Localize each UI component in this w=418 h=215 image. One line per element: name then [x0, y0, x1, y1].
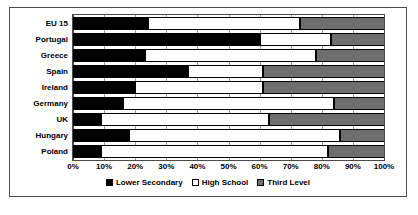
- bar-segment-high-school[interactable]: [260, 33, 332, 46]
- y-axis-category-labels: EU 15PortugalGreeceSpainIrelandGermanyUK…: [10, 15, 72, 160]
- bar-row[interactable]: [73, 129, 384, 142]
- bar-segment-third-level[interactable]: [331, 33, 384, 46]
- bar-segment-lower-secondary[interactable]: [73, 65, 188, 78]
- category-label-greece: Greece: [12, 49, 68, 62]
- category-label-poland: Poland: [12, 145, 68, 158]
- bar-segment-high-school[interactable]: [129, 129, 340, 142]
- legend-label: Lower Secondary: [116, 178, 183, 187]
- bar-row[interactable]: [73, 17, 384, 30]
- legend-label: High School: [202, 178, 249, 187]
- bar-segment-high-school[interactable]: [148, 17, 300, 30]
- bar-segment-lower-secondary[interactable]: [73, 81, 135, 94]
- category-label-eu-15: EU 15: [12, 17, 68, 30]
- category-label-hungary: Hungary: [12, 129, 68, 142]
- bar-segment-lower-secondary[interactable]: [73, 97, 123, 110]
- legend-item-high-school[interactable]: High School: [192, 178, 249, 187]
- bar-segment-third-level[interactable]: [328, 145, 384, 158]
- bar-segment-third-level[interactable]: [263, 65, 384, 78]
- x-axis-tick-labels: 0%10%20%30%40%50%60%70%80%90%100%: [72, 162, 385, 176]
- bar-segment-third-level[interactable]: [316, 49, 384, 62]
- bar-segment-high-school[interactable]: [101, 145, 328, 158]
- bar-segment-third-level[interactable]: [334, 97, 384, 110]
- x-tick-60pct: 60%: [252, 162, 268, 171]
- legend-label: Third Level: [267, 178, 310, 187]
- bar-row[interactable]: [73, 65, 384, 78]
- bar-row[interactable]: [73, 81, 384, 94]
- x-tick-0pct: 0%: [67, 162, 79, 171]
- chart-frame: EU 15PortugalGreeceSpainIrelandGermanyUK…: [9, 7, 407, 197]
- gridline-100pct: [384, 15, 385, 160]
- chart-legend: Lower SecondaryHigh SchoolThird Level: [10, 178, 406, 187]
- plot-area: [72, 14, 385, 161]
- x-tick-10pct: 10%: [96, 162, 112, 171]
- x-tick-80pct: 80%: [314, 162, 330, 171]
- legend-swatch-lower-secondary-icon: [106, 179, 113, 186]
- legend-swatch-high-school-icon: [192, 179, 199, 186]
- bar-row[interactable]: [73, 145, 384, 158]
- category-label-ireland: Ireland: [12, 81, 68, 94]
- x-tick-90pct: 90%: [345, 162, 361, 171]
- bar-segment-lower-secondary[interactable]: [73, 17, 148, 30]
- bar-row[interactable]: [73, 113, 384, 126]
- x-tick-50pct: 50%: [220, 162, 236, 171]
- bar-row[interactable]: [73, 97, 384, 110]
- bar-segment-high-school[interactable]: [145, 49, 316, 62]
- bar-segment-high-school[interactable]: [101, 113, 269, 126]
- legend-item-third-level[interactable]: Third Level: [257, 178, 310, 187]
- bar-row[interactable]: [73, 49, 384, 62]
- bar-segment-third-level[interactable]: [269, 113, 384, 126]
- legend-swatch-third-level-icon: [257, 179, 264, 186]
- bar-segment-lower-secondary[interactable]: [73, 145, 101, 158]
- category-label-germany: Germany: [12, 97, 68, 110]
- bar-rows: [73, 15, 384, 160]
- x-tick-100pct: 100%: [374, 162, 394, 171]
- bar-segment-high-school[interactable]: [188, 65, 263, 78]
- bar-segment-third-level[interactable]: [340, 129, 384, 142]
- bar-segment-high-school[interactable]: [123, 97, 334, 110]
- bar-segment-third-level[interactable]: [263, 81, 384, 94]
- bar-segment-lower-secondary[interactable]: [73, 113, 101, 126]
- bar-segment-lower-secondary[interactable]: [73, 129, 129, 142]
- x-tick-70pct: 70%: [283, 162, 299, 171]
- bar-row[interactable]: [73, 33, 384, 46]
- x-tick-40pct: 40%: [189, 162, 205, 171]
- bar-segment-high-school[interactable]: [135, 81, 263, 94]
- category-label-spain: Spain: [12, 65, 68, 78]
- bar-segment-lower-secondary[interactable]: [73, 33, 260, 46]
- category-label-portugal: Portugal: [12, 33, 68, 46]
- bar-segment-third-level[interactable]: [300, 17, 384, 30]
- category-label-uk: UK: [12, 113, 68, 126]
- bar-segment-lower-secondary[interactable]: [73, 49, 145, 62]
- legend-item-lower-secondary[interactable]: Lower Secondary: [106, 178, 183, 187]
- x-tick-30pct: 30%: [158, 162, 174, 171]
- x-tick-20pct: 20%: [127, 162, 143, 171]
